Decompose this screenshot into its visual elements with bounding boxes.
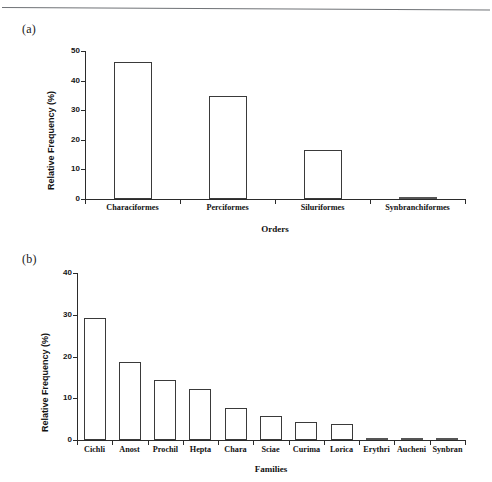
bar-curima xyxy=(295,422,317,440)
x-tick-label: Synbranchiformes xyxy=(364,203,471,212)
bar-lorica xyxy=(331,424,353,440)
bar-siluriformes xyxy=(304,150,342,199)
x-tick-label: Perciformes xyxy=(174,203,281,212)
y-tick-label: 20 xyxy=(52,353,72,361)
bar-sciae xyxy=(260,416,282,440)
y-tick-mark xyxy=(81,51,85,52)
bar-synbran xyxy=(436,438,458,440)
panel-a: (a) 01020304050Relative Frequency (%)Cha… xyxy=(0,0,492,246)
x-tick-label: Siluriformes xyxy=(269,203,376,212)
y-tick-label: 40 xyxy=(58,77,80,85)
x-axis-title: Orders xyxy=(85,224,465,234)
figure-canvas: (a) 01020304050Relative Frequency (%)Cha… xyxy=(0,0,492,482)
x-tick-label: Characiformes xyxy=(79,203,186,212)
y-tick-label: 50 xyxy=(58,47,80,55)
bar-chara xyxy=(225,408,247,440)
y-tick-label: 10 xyxy=(58,165,80,173)
y-tick-mark xyxy=(73,398,77,399)
bar-hepta xyxy=(189,389,211,440)
y-tick-mark xyxy=(81,110,85,111)
bar-characiformes xyxy=(114,62,152,199)
y-tick-label: 0 xyxy=(52,436,72,444)
y-axis-line xyxy=(85,51,86,200)
y-tick-label: 30 xyxy=(52,311,72,319)
y-tick-mark xyxy=(73,273,77,274)
bar-prochil xyxy=(154,380,176,440)
y-tick-label: 20 xyxy=(58,136,80,144)
y-tick-mark xyxy=(81,169,85,170)
bar-cichli xyxy=(84,318,106,440)
x-tick-label: Synbran xyxy=(424,445,471,454)
y-tick-label: 0 xyxy=(58,195,80,203)
y-tick-label: 30 xyxy=(58,106,80,114)
bar-perciformes xyxy=(209,96,247,199)
bar-anost xyxy=(119,362,141,440)
panel-b-letter: (b) xyxy=(22,252,37,267)
y-tick-mark xyxy=(81,140,85,141)
bar-aucheni xyxy=(401,438,423,440)
bar-erythri xyxy=(366,438,388,440)
y-axis-title: Relative Frequency (%) xyxy=(40,333,50,432)
bar-synbranchiformes xyxy=(399,197,437,199)
panel-a-letter: (a) xyxy=(22,22,36,37)
y-axis-title: Relative Frequency (%) xyxy=(46,91,56,190)
y-tick-label: 40 xyxy=(52,269,72,277)
x-axis-title: Families xyxy=(77,464,465,474)
y-tick-label: 10 xyxy=(52,394,72,402)
y-tick-mark xyxy=(81,81,85,82)
y-tick-mark xyxy=(73,315,77,316)
x-axis-line xyxy=(77,440,466,441)
panel-b: (b) 010203040Relative Frequency (%)Cichl… xyxy=(0,246,492,482)
y-axis-line xyxy=(77,273,78,441)
y-tick-mark xyxy=(73,357,77,358)
